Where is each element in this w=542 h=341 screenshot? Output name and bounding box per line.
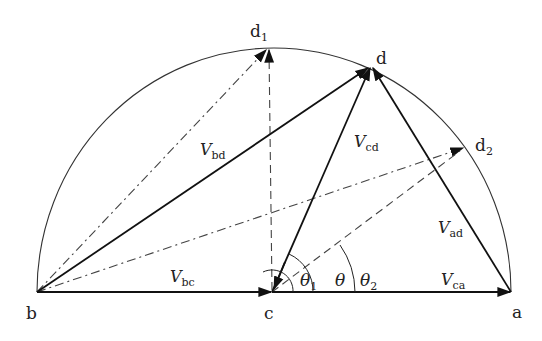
line-b-d1 [37, 50, 266, 292]
point-label-d2: d2 [475, 135, 493, 158]
vector-label-ad: Vad [438, 218, 463, 240]
line-c-d1 [269, 50, 272, 290]
vector-label-bc: Vbc [170, 267, 195, 289]
point-label-a: a [512, 302, 522, 322]
point-label-c: c [264, 303, 274, 323]
angle-label-theta2: θ2 [360, 270, 377, 293]
vector-bd [37, 68, 368, 292]
point-label-d: d [376, 48, 387, 68]
angle-label-theta: θ [335, 270, 345, 290]
vector-dc-head [274, 262, 285, 289]
vector-cd [272, 68, 370, 292]
semicircle-locus [37, 48, 511, 292]
angle-label-theta1: θ1 [300, 270, 317, 293]
phasor-diagram: b c a d d1 d2 Vbd Vcd Vad Vbc Vca θ1 θ θ… [0, 0, 542, 341]
vector-label-bd: Vbd [200, 140, 226, 162]
point-label-d1: d1 [250, 21, 268, 44]
point-label-b: b [26, 303, 37, 323]
line-b-d2 [37, 148, 463, 292]
vector-ad [373, 68, 511, 292]
vector-label-cd: Vcd [354, 132, 379, 154]
vector-label-ca: Vca [441, 270, 466, 292]
